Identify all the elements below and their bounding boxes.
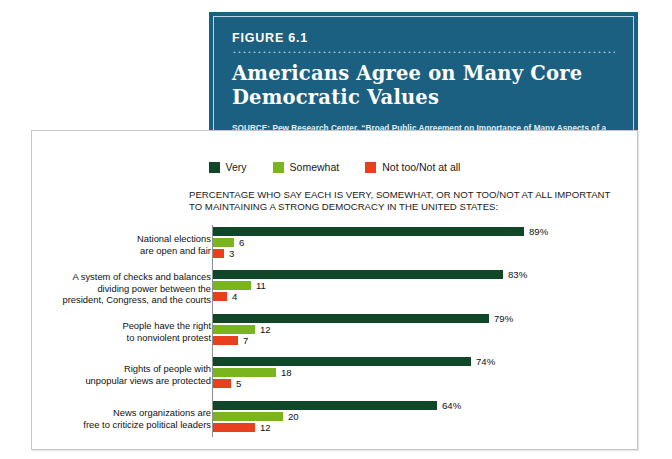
bar-value-somewhat: 20 [288, 412, 299, 421]
bar-value-very: 89% [529, 227, 548, 236]
legend-label-not-too: Not too/Not at all [382, 162, 460, 173]
legend-item-very: Very [209, 162, 247, 173]
bar-very [213, 357, 471, 366]
bar-row: 64% [213, 401, 461, 410]
bar-row: 20 [213, 412, 299, 421]
bar-group: National elections are open and fair 89%… [32, 223, 639, 267]
legend-item-somewhat: Somewhat [273, 162, 340, 173]
bar-value-not-too: 5 [236, 379, 241, 388]
bar-group-bars: 74% 18 5 [213, 353, 639, 397]
legend-item-not-too: Not too/Not at all [365, 162, 460, 173]
dotted-rule-divider [232, 50, 615, 53]
legend-swatch-somewhat [273, 162, 284, 173]
bar-somewhat [213, 325, 255, 334]
legend-swatch-very [209, 162, 220, 173]
bar-row: 4 [213, 292, 237, 301]
bar-group-label-line: unpopular views are protected [0, 375, 211, 387]
bar-value-not-too: 4 [232, 292, 237, 301]
bar-row: 11 [213, 281, 266, 290]
legend-label-very: Very [226, 162, 247, 173]
bar-value-very: 79% [494, 314, 513, 323]
bar-somewhat [213, 368, 276, 377]
bar-row: 6 [213, 238, 244, 247]
bar-value-very: 74% [476, 357, 495, 366]
bar-group-label-line: dividing power between the [0, 282, 211, 294]
bar-group: News organizations are free to criticize… [32, 397, 639, 441]
bar-somewhat [213, 238, 234, 247]
bar-group: A system of checks and balances dividing… [32, 266, 639, 310]
bar-group-label: Rights of people with unpopular views ar… [0, 363, 211, 386]
bar-group-label: A system of checks and balances dividing… [0, 271, 211, 306]
bar-value-not-too: 12 [260, 423, 271, 432]
legend-label-somewhat: Somewhat [290, 162, 340, 173]
bar-row: 5 [213, 379, 241, 388]
bar-very [213, 270, 503, 279]
bar-group-bars: 64% 20 12 [213, 397, 639, 441]
bar-value-somewhat: 11 [256, 281, 266, 290]
bar-group-label-line: Rights of people with [0, 363, 211, 375]
bar-very [213, 314, 489, 323]
bar-not-too [213, 336, 238, 345]
bar-value-very: 83% [508, 270, 527, 279]
bar-row: 12 [213, 423, 271, 432]
bar-not-too [213, 423, 255, 432]
bar-group-label: News organizations are free to criticize… [0, 407, 211, 430]
bar-group-label: People have the right to nonviolent prot… [0, 320, 211, 343]
chart-legend: Very Somewhat Not too/Not at all [32, 162, 637, 173]
bar-group-label: National elections are open and fair [0, 233, 211, 256]
bar-group-bars: 89% 6 3 [213, 223, 639, 267]
bar-group-bars: 79% 12 7 [213, 310, 639, 354]
bar-not-too [213, 379, 231, 388]
bar-somewhat [213, 281, 251, 290]
bar-value-somewhat: 12 [260, 325, 271, 334]
figure-number: FIGURE 6.1 [232, 31, 615, 45]
legend-swatch-not-too [365, 162, 376, 173]
chart-panel: Very Somewhat Not too/Not at all PERCENT… [31, 130, 638, 450]
bar-very [213, 227, 524, 236]
bar-very [213, 401, 437, 410]
bar-group-label-line: A system of checks and balances [0, 271, 211, 283]
bar-group-bars: 83% 11 4 [213, 266, 639, 310]
bar-somewhat [213, 412, 283, 421]
bar-row: 83% [213, 270, 527, 279]
bar-group: People have the right to nonviolent prot… [32, 310, 639, 354]
bar-value-not-too: 3 [229, 249, 234, 258]
bar-row: 74% [213, 357, 495, 366]
bar-group-label-line: News organizations are [0, 407, 211, 419]
bar-group-label-line: People have the right [0, 320, 211, 332]
bar-value-not-too: 7 [243, 336, 248, 345]
bar-group-label-line: president, Congress, and the courts [0, 294, 211, 306]
bar-not-too [213, 292, 227, 301]
bar-group: Rights of people with unpopular views ar… [32, 353, 639, 397]
bar-value-very: 64% [442, 401, 461, 410]
bar-row: 18 [213, 368, 292, 377]
bar-group-label-line: free to criticize political leaders [0, 419, 211, 431]
bar-not-too [213, 249, 224, 258]
bar-row: 3 [213, 249, 234, 258]
bar-row: 89% [213, 227, 548, 236]
bar-value-somewhat: 6 [239, 238, 244, 247]
bar-group-label-line: National elections [0, 233, 211, 245]
bar-row: 7 [213, 336, 248, 345]
chart-subtitle: PERCENTAGE WHO SAY EACH IS VERY, SOMEWHA… [189, 189, 621, 214]
bar-group-label-line: to nonviolent protest [0, 332, 211, 344]
bar-value-somewhat: 18 [281, 368, 292, 377]
bar-row: 79% [213, 314, 513, 323]
bar-group-label-line: are open and fair [0, 245, 211, 257]
bar-row: 12 [213, 325, 271, 334]
figure-title: Americans Agree on Many Core Democratic … [232, 62, 615, 110]
plot-area: National elections are open and fair 89%… [32, 223, 639, 445]
